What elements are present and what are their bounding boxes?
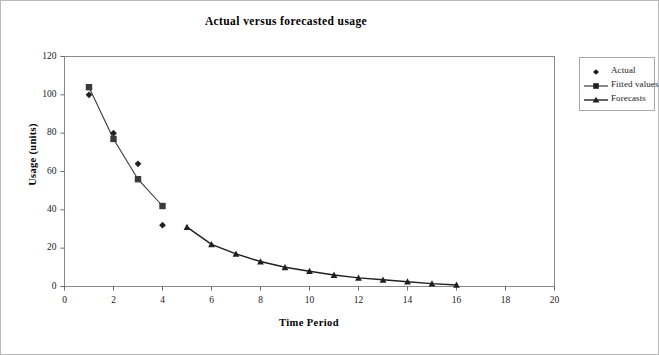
x-tick-label: 14 [388,295,428,305]
legend-item-forecasts: Forecasts [583,91,651,105]
y-tick-label: 0 [1,281,57,291]
triangle-line-marker-icon [583,92,609,104]
plot-frame [65,57,555,287]
x-tick-label: 6 [192,295,232,305]
x-tick-label: 12 [339,295,379,305]
chart-figure: Actual versus forecasted usage 020406080… [0,0,659,355]
x-tick-label: 18 [486,295,526,305]
legend-item-fitted-values: Fitted values [583,77,651,91]
chart-legend: Actual Fitted values Forecasts [579,57,655,111]
x-tick-label: 10 [290,295,330,305]
square-line-marker-icon [583,78,609,90]
series-fitted-values [86,84,166,209]
y-tick-label: 120 [1,51,57,61]
legend-label: Actual [609,65,636,75]
x-tick-label: 4 [143,295,183,305]
legend-label: Fitted values [609,79,659,89]
x-tick-label: 20 [535,295,575,305]
legend-item-actual: Actual [583,63,651,77]
data-series-group [86,84,460,288]
x-tick-label: 0 [45,295,85,305]
x-tick-label: 16 [437,295,477,305]
x-axis-label: Time Period [64,317,554,328]
y-tick-label: 100 [1,89,57,99]
legend-label: Forecasts [609,93,646,103]
series-forecasts [184,224,460,288]
y-tick-label: 20 [1,242,57,252]
y-axis-label: Usage (units) [27,100,38,210]
diamond-marker-icon [583,64,609,76]
x-tick-label: 2 [94,295,134,305]
x-tick-label: 8 [241,295,281,305]
